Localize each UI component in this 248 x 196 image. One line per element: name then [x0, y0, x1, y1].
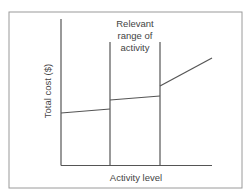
y-axis-label: Total cost ($): [42, 64, 53, 118]
cost-segment-within-range: [110, 96, 160, 100]
range-annotation-line3: activity: [120, 42, 149, 53]
x-axis-label: Activity level: [110, 172, 162, 183]
cost-behavior-diagram: Relevant range of activity Activity leve…: [0, 0, 248, 196]
range-annotation-line1: Relevant: [116, 18, 154, 29]
range-annotation-line2: range of: [118, 30, 153, 41]
cost-segment-below-range: [61, 109, 110, 113]
cost-segment-above-range: [160, 58, 212, 86]
